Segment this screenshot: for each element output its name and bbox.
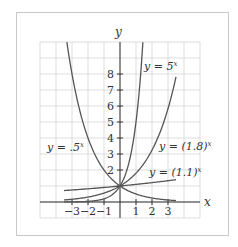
axes — [40, 42, 200, 218]
x-tick-label: −1 — [96, 205, 112, 218]
svg-text:y = 5x: y = 5x — [143, 60, 177, 73]
label-5x: y = 5x — [143, 60, 177, 73]
x-tick-label: −3 — [64, 205, 80, 218]
x-tick-label: 2 — [149, 205, 156, 218]
label-1-8x: y = (1.8)x — [158, 140, 212, 153]
y-tick-label: 7 — [107, 84, 114, 97]
y-tick-label: 5 — [107, 116, 114, 129]
exponential-chart: −3−2−11232345678 y x y = 5x y = (1.8)x y… — [0, 0, 238, 247]
label-0-5x: y = .5x — [46, 141, 84, 154]
y-tick-label: 4 — [107, 132, 114, 145]
svg-text:y = (1.1)x: y = (1.1)x — [148, 166, 202, 179]
svg-text:y = .5x: y = .5x — [46, 141, 84, 154]
y-axis-label: y — [114, 25, 122, 39]
x-axis-label: x — [204, 195, 211, 209]
label-1-1x: y = (1.1)x — [148, 166, 202, 179]
x-tick-label: 3 — [165, 205, 172, 218]
y-tick-label: 3 — [107, 148, 114, 161]
y-tick-label: 6 — [107, 100, 114, 113]
y-tick-label: 8 — [107, 68, 114, 81]
svg-text:y = (1.8)x: y = (1.8)x — [158, 140, 212, 153]
x-tick-label: 1 — [133, 205, 140, 218]
x-tick-label: −2 — [80, 205, 96, 218]
